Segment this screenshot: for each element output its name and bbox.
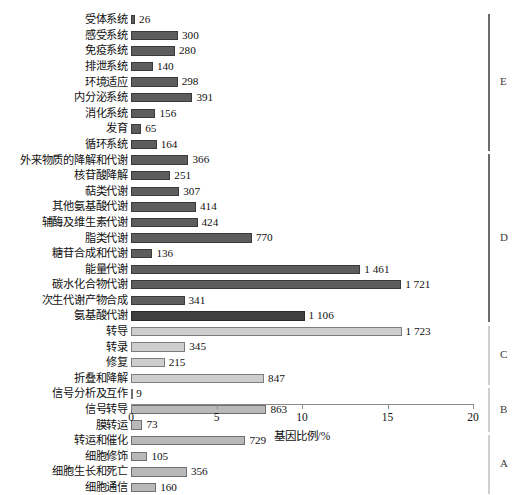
chart-row: 感受系统300 xyxy=(0,28,525,44)
bar-track: 391 xyxy=(131,90,525,106)
chart-row: 次生代谢产物合成341 xyxy=(0,293,525,309)
bar-track: 414 xyxy=(131,199,525,215)
bar-track: 847 xyxy=(131,371,525,387)
bar-track: 1 723 xyxy=(131,324,525,340)
category-label: 膜转运 xyxy=(0,420,131,431)
bar xyxy=(131,405,266,414)
bar xyxy=(131,358,165,367)
bar-value-label: 414 xyxy=(200,200,217,213)
chart-row: 细胞生长和死亡356 xyxy=(0,464,525,480)
chart-row: 环境适应298 xyxy=(0,74,525,90)
chart-row: 其他氨基酸代谢414 xyxy=(0,199,525,215)
bar-track: 1 106 xyxy=(131,308,525,324)
chart-row: 修复215 xyxy=(0,355,525,371)
x-tick-label: 20 xyxy=(467,411,479,423)
bar xyxy=(131,109,155,118)
bar xyxy=(131,202,196,211)
bar xyxy=(131,265,360,274)
bar xyxy=(131,46,175,55)
chart-row: 内分泌系统391 xyxy=(0,90,525,106)
chart-row: 免疫系统280 xyxy=(0,43,525,59)
category-label: 信号转导 xyxy=(0,404,131,415)
chart-row: 碳水化合物代谢1 721 xyxy=(0,277,525,293)
bar xyxy=(131,327,402,336)
bar-value-label: 105 xyxy=(151,450,168,463)
category-label: 发育 xyxy=(0,123,131,134)
bar-track: 341 xyxy=(131,293,525,309)
bar-track: 424 xyxy=(131,215,525,231)
category-label: 循环系统 xyxy=(0,139,131,150)
bar xyxy=(131,93,192,102)
x-tick xyxy=(131,404,132,409)
group-bracket-line xyxy=(488,14,490,151)
category-label: 氨基酸代谢 xyxy=(0,310,131,321)
chart-row: 折叠和降解847 xyxy=(0,371,525,387)
bar-track: 140 xyxy=(131,59,525,75)
group-bracket-label: D xyxy=(500,231,508,243)
category-label: 感受系统 xyxy=(0,30,131,41)
bar-track: 26 xyxy=(131,12,525,28)
bar xyxy=(131,374,264,383)
group-bracket-line xyxy=(488,326,490,385)
bar-track: 65 xyxy=(131,121,525,137)
bar xyxy=(131,155,188,164)
bar-value-label: 156 xyxy=(159,107,176,120)
bar-track: 160 xyxy=(131,480,525,495)
category-label: 折叠和降解 xyxy=(0,373,131,384)
bar-value-label: 424 xyxy=(202,216,219,229)
chart-row: 转导1 723 xyxy=(0,324,525,340)
group-bracket-label: A xyxy=(500,457,508,469)
category-label: 免疫系统 xyxy=(0,45,131,56)
chart-row: 核苷酸降解251 xyxy=(0,168,525,184)
group-bracket-line xyxy=(488,435,490,494)
bar-track: 366 xyxy=(131,152,525,168)
category-label: 脂类代谢 xyxy=(0,233,131,244)
x-tick xyxy=(217,404,218,409)
bar-value-label: 251 xyxy=(174,169,191,182)
bar-value-label: 215 xyxy=(169,356,186,369)
category-label: 核苷酸降解 xyxy=(0,170,131,181)
chart-row: 细胞通信160 xyxy=(0,480,525,495)
bar-value-label: 65 xyxy=(145,122,156,135)
bar-value-label: 26 xyxy=(139,13,150,26)
bar xyxy=(131,140,157,149)
group-bracket-line xyxy=(488,388,490,432)
category-label: 辅酶及维生素代谢 xyxy=(0,217,131,228)
bar xyxy=(131,280,401,289)
bar-value-label: 9 xyxy=(136,387,142,400)
bar xyxy=(131,342,185,351)
bar xyxy=(131,296,185,305)
category-label: 碳水化合物代谢 xyxy=(0,279,131,290)
chart-row: 发育65 xyxy=(0,121,525,137)
bar-track: 298 xyxy=(131,74,525,90)
category-label: 次生代谢产物合成 xyxy=(0,295,131,306)
bar-value-label: 164 xyxy=(161,138,178,151)
bar xyxy=(131,171,170,180)
chart-row: 辅酶及维生素代谢424 xyxy=(0,215,525,231)
bar xyxy=(131,15,135,24)
bar-track: 215 xyxy=(131,355,525,371)
bar-value-label: 140 xyxy=(157,60,174,73)
bar-track: 156 xyxy=(131,106,525,122)
chart-row: 萜类代谢307 xyxy=(0,184,525,200)
category-label: 细胞生长和死亡 xyxy=(0,466,131,477)
category-label: 细胞修饰 xyxy=(0,451,131,462)
bar-value-label: 341 xyxy=(189,294,206,307)
category-label: 环境适应 xyxy=(0,77,131,88)
x-tick xyxy=(388,404,389,409)
category-label: 转运和催化 xyxy=(0,435,131,446)
chart-row: 信号分析及互作9 xyxy=(0,386,525,402)
bar xyxy=(131,249,152,258)
bar-value-label: 847 xyxy=(268,372,285,385)
group-bracket-line xyxy=(488,154,490,323)
bar-value-label: 1 106 xyxy=(309,309,334,322)
x-tick xyxy=(302,404,303,409)
bar xyxy=(131,467,187,476)
group-bracket-label: E xyxy=(500,75,507,87)
category-label: 消化系统 xyxy=(0,108,131,119)
bar xyxy=(131,483,156,492)
category-label: 受体系统 xyxy=(0,14,131,25)
bar-value-label: 356 xyxy=(191,465,208,478)
chart-row: 消化系统156 xyxy=(0,106,525,122)
